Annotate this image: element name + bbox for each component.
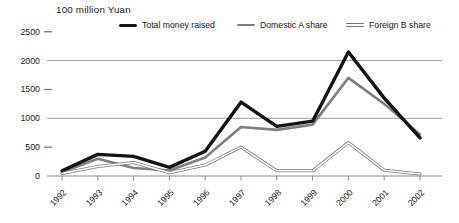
x-tick-label-1994: 1994 [119,187,140,208]
x-tick-label-1993: 1993 [84,187,105,208]
series-line-total-money-raised [62,52,420,171]
y-tick-label-2500: 2500 [20,27,40,37]
x-tick-label-1995: 1995 [155,187,176,208]
x-tick-label-1997: 1997 [227,187,248,208]
chart-figure: 100 million Yuan Total money raised Dome… [0,0,459,223]
x-tick-label-2001: 2001 [370,187,391,208]
x-tick-label-2000: 2000 [334,187,355,208]
y-tick-label-500: 500 [25,142,40,152]
x-tick-label-1996: 1996 [191,187,212,208]
series-lines [62,52,420,174]
line-chart-canvas: 0500100015002000250019921993199419951996… [0,0,459,223]
y-tick-label-2000: 2000 [20,56,40,66]
y-tick-label-1000: 1000 [20,113,40,123]
x-tick-label-2002: 2002 [406,187,427,208]
gridlines [47,61,442,119]
y-tick-label-1500: 1500 [20,84,40,94]
x-tick-label-1998: 1998 [263,187,284,208]
y-tick-label-0: 0 [35,171,40,181]
x-axis-labels: 1992199319941995199619971998199920002001… [48,176,427,208]
x-tick-label-1992: 1992 [48,187,69,208]
x-tick-label-1999: 1999 [298,187,319,208]
y-axis-labels: 05001000150020002500 [20,27,40,181]
